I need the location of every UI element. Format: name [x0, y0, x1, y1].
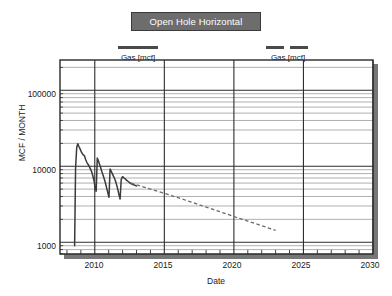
grid-minor-lines	[60, 67, 373, 254]
plot-frame-shadow-bottom	[64, 254, 378, 259]
series-line-history	[75, 144, 137, 246]
chart-figure: Open Hole Horizontal Gas [mcf] Gas [mcf]…	[0, 0, 392, 296]
plot-frame	[60, 60, 373, 254]
grid-major-x-lines	[95, 60, 373, 254]
plot-area	[0, 0, 392, 296]
plot-frame-shadow	[373, 64, 378, 254]
axis-ticks	[60, 67, 373, 254]
series-line-forecast	[131, 183, 276, 230]
